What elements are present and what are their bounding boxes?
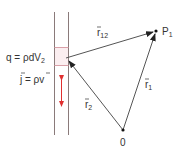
vector-r12 (66, 32, 153, 58)
vector-r1 (123, 34, 155, 130)
diagram-canvas: q = ρdV2 j = ρv r12 r1 r2 P1 0 (0, 0, 181, 150)
r12-label: r12 (97, 27, 108, 39)
point-p1-dot (154, 29, 157, 32)
origin-dot (121, 128, 124, 131)
origin-label: 0 (120, 137, 126, 148)
point-p1-label: P1 (162, 26, 173, 38)
r2-label: r2 (85, 99, 92, 111)
r1-label: r1 (145, 79, 152, 91)
vector-r2 (69, 61, 123, 130)
current-label: j = ρv (19, 74, 44, 85)
charge-label: q = ρdV2 (6, 52, 45, 64)
volume-element (55, 48, 69, 66)
